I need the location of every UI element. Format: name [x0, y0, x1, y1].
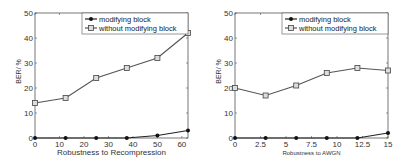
- x-tick-label: 0: [233, 140, 238, 149]
- data-point-square: [124, 66, 129, 71]
- chart-recompression: 010203040500102030405060Robustness to Re…: [15, 9, 191, 157]
- y-tick-label: 50: [224, 9, 233, 18]
- data-point-circle: [294, 136, 298, 140]
- data-point-square: [94, 76, 99, 81]
- data-point-circle: [155, 134, 159, 138]
- x-tick-label: 2.5: [255, 140, 267, 149]
- data-point-square: [155, 56, 160, 61]
- data-point-circle: [355, 136, 359, 140]
- y-tick-label: 10: [24, 109, 33, 118]
- y-tick-label: 10: [224, 109, 233, 118]
- data-point-circle: [125, 136, 129, 140]
- x-tick-label: 60: [177, 140, 186, 149]
- series-line: [35, 33, 188, 103]
- y-tick-label: 30: [224, 59, 233, 68]
- series-line: [235, 68, 388, 96]
- y-tick-label: 40: [224, 34, 233, 43]
- data-point-circle: [94, 136, 98, 140]
- x-tick-label: 5: [284, 140, 289, 149]
- data-point-square: [263, 93, 268, 98]
- figure: 010203040500102030405060Robustness to Re…: [0, 0, 405, 166]
- series-line: [35, 131, 188, 139]
- x-tick-label: 12.5: [355, 140, 371, 149]
- y-tick-label: 20: [24, 84, 33, 93]
- data-point-square: [33, 101, 38, 106]
- y-tick-label: 40: [24, 34, 33, 43]
- data-point-square: [63, 96, 68, 101]
- legend-label: without modifying block: [298, 24, 377, 33]
- legend-label: modifying block: [299, 15, 351, 24]
- legend-label: without modifying block: [98, 24, 177, 33]
- y-tick-label: 30: [24, 59, 33, 68]
- chart-awgn: 0102030405002.557.51012.515Robustness to…: [215, 9, 393, 156]
- legend: modifying blockwithout modifying block: [82, 13, 188, 34]
- data-point-square: [324, 71, 329, 76]
- legend-label: modifying block: [99, 15, 151, 24]
- data-point-square: [294, 83, 299, 88]
- y-tick-label: 50: [24, 9, 33, 18]
- y-axis-label: BER/ %: [15, 59, 22, 84]
- data-point-square: [233, 86, 238, 91]
- x-tick-label: 0: [33, 140, 38, 149]
- x-axis-label: Robustness to AWGN: [282, 150, 340, 156]
- data-point-circle: [233, 136, 237, 140]
- x-tick-label: 15: [384, 140, 393, 149]
- data-point-circle: [386, 131, 390, 135]
- data-point-square: [355, 66, 360, 71]
- y-axis-label: BER/ %: [215, 59, 222, 84]
- data-point-circle: [33, 136, 37, 140]
- legend: modifying blockwithout modifying block: [282, 13, 388, 34]
- data-point-circle: [325, 136, 329, 140]
- x-tick-label: 10: [333, 140, 342, 149]
- x-axis-label: Robustness to Recompression: [57, 148, 166, 157]
- data-point-square: [386, 68, 391, 73]
- data-point-circle: [64, 136, 68, 140]
- x-tick-label: 7.5: [306, 140, 318, 149]
- data-point-circle: [264, 136, 268, 140]
- data-point-circle: [186, 129, 190, 133]
